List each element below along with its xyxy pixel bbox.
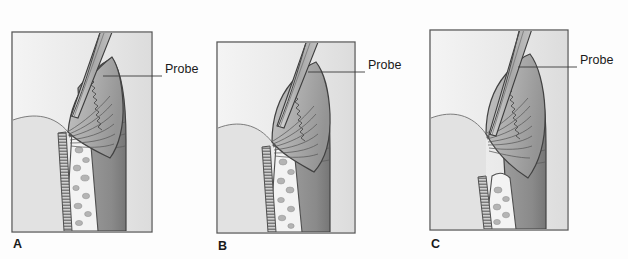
panel-a-probe-callout-label: Probe	[165, 63, 198, 76]
periodontal-probing-figure: Probe A Probe B Probe C	[0, 0, 628, 259]
panel-a-artwork	[12, 4, 162, 232]
panel-b-probe-callout-label: Probe	[368, 59, 401, 72]
panel-a-label: A	[13, 238, 22, 251]
panel-b-label: B	[218, 240, 227, 253]
panel-c-probe-callout-label: Probe	[580, 54, 613, 67]
panel-c-label: C	[431, 238, 440, 251]
illustration-canvas	[0, 0, 628, 259]
panel-c-artwork	[430, 2, 577, 230]
panel-b-artwork	[217, 14, 365, 233]
